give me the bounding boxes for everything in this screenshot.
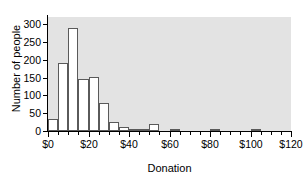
x-axis-minor-tick	[220, 132, 221, 135]
histogram-bar	[78, 79, 88, 131]
x-axis-minor-tick	[58, 132, 59, 135]
x-axis-tick	[48, 132, 49, 137]
histogram-bar	[139, 129, 149, 131]
y-axis-tick-label: 150	[23, 73, 41, 84]
y-axis-tick	[43, 24, 47, 25]
y-axis-tick	[43, 60, 47, 61]
y-axis-tick	[43, 113, 47, 114]
x-axis-tick-label: $40	[120, 139, 138, 150]
histogram-bar	[58, 63, 68, 131]
y-axis-tick	[43, 42, 47, 43]
x-axis-minor-tick	[281, 132, 282, 135]
histogram-chart: Number of people 050100150200250300 $0$2…	[0, 0, 307, 181]
x-axis-tick	[170, 132, 171, 137]
x-axis-minor-tick	[261, 132, 262, 135]
y-axis-tick	[43, 131, 47, 132]
y-axis-tick	[43, 78, 47, 79]
y-axis-tick	[43, 95, 47, 96]
x-axis-tick	[129, 132, 130, 137]
histogram-bar	[251, 129, 261, 131]
histogram-bar	[119, 127, 129, 131]
y-axis-tick-label: 200	[23, 55, 41, 66]
x-axis-minor-tick	[68, 132, 69, 135]
histogram-bar	[170, 129, 180, 131]
x-axis-minor-tick	[119, 132, 120, 135]
x-axis-tick	[89, 132, 90, 137]
x-axis-tick-label: $100	[239, 139, 262, 150]
x-axis-tick-label: $20	[80, 139, 98, 150]
x-axis-minor-tick	[139, 132, 140, 135]
y-axis-tick-label: 250	[23, 37, 41, 48]
x-axis-minor-tick	[271, 132, 272, 135]
y-axis-tick-label: 100	[23, 90, 41, 101]
x-axis-tick-label: $120	[279, 139, 302, 150]
x-axis-minor-tick	[180, 132, 181, 135]
x-axis-tick-label: $80	[201, 139, 219, 150]
x-axis-tick-label: $60	[161, 139, 179, 150]
histogram-bar	[129, 129, 139, 131]
histogram-bar	[109, 122, 119, 131]
x-axis-title: Donation	[48, 163, 291, 174]
x-axis-minor-tick	[230, 132, 231, 135]
x-axis-minor-tick	[99, 132, 100, 135]
histogram-bar	[68, 28, 78, 131]
histogram-bar	[99, 103, 109, 131]
x-axis-minor-tick	[159, 132, 160, 135]
histogram-bar	[89, 77, 99, 132]
histogram-bar	[210, 129, 220, 131]
y-axis-tick-label: 300	[23, 19, 41, 30]
y-axis-tick-label: 50	[29, 108, 41, 119]
x-axis-minor-tick	[78, 132, 79, 135]
x-axis-tick-label: $0	[42, 139, 54, 150]
y-axis-tick-label: 0	[35, 126, 41, 137]
histogram-bar	[48, 119, 58, 131]
x-axis-minor-tick	[149, 132, 150, 135]
x-axis-minor-tick	[109, 132, 110, 135]
x-axis-minor-tick	[200, 132, 201, 135]
x-axis-minor-tick	[240, 132, 241, 135]
x-axis-tick	[210, 132, 211, 137]
x-axis-tick	[291, 132, 292, 137]
bar-series	[48, 17, 291, 131]
histogram-bar	[149, 124, 159, 131]
x-axis-minor-tick	[190, 132, 191, 135]
x-axis-tick	[251, 132, 252, 137]
y-axis-title: Number of people	[11, 9, 22, 129]
